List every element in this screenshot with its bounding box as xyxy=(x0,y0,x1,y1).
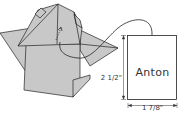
body xyxy=(24,44,80,97)
height-dimension xyxy=(121,35,126,100)
right-wing xyxy=(80,30,118,66)
height-label: 2 1/2" xyxy=(100,74,122,82)
width-label: 1 7/8" xyxy=(128,104,177,112)
origami-figure xyxy=(0,4,118,97)
tag-name-text: Anton xyxy=(128,66,177,79)
arrow-down-icon xyxy=(122,96,124,99)
hood xyxy=(18,4,82,46)
origami-diagram xyxy=(0,0,180,116)
arrow-up-icon xyxy=(122,36,124,39)
